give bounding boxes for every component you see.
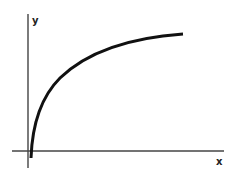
function-diagram: y x <box>0 0 236 174</box>
x-axis-label: x <box>216 156 223 167</box>
y-axis-label: y <box>32 15 39 26</box>
growth-curve <box>31 34 183 158</box>
